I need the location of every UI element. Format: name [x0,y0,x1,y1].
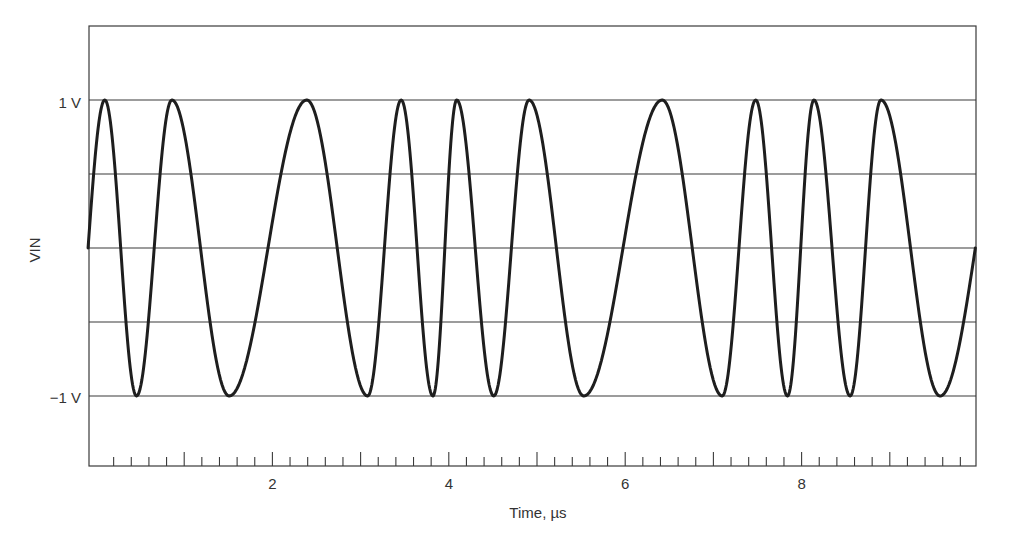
chart: 1 V−1 V 2468 Time, µs VIN [0,0,1010,546]
x-axis-label: Time, µs [509,504,566,521]
x-axis-ticks [114,452,961,466]
x-tick-label: 4 [445,475,453,492]
y-tick-label: −1 V [50,389,81,406]
plot-frame [89,26,976,466]
x-tick-label: 8 [797,475,805,492]
gridlines [89,100,976,396]
x-tick-label: 2 [268,475,276,492]
y-tick-label: 1 V [58,94,81,111]
y-axis-label: VIN [26,237,43,262]
x-tick-label: 6 [621,475,629,492]
y-tick-labels: 1 V−1 V [50,94,81,406]
x-tick-labels: 2468 [268,475,806,492]
